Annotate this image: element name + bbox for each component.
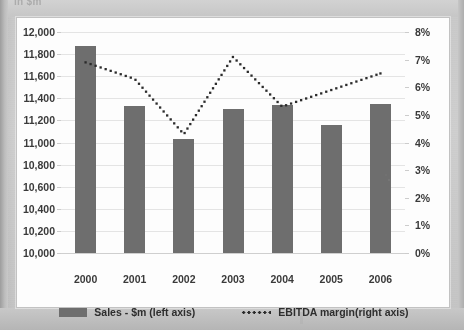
y-axis-left-tick-label: 10,400	[7, 204, 55, 214]
y-axis-right-tick	[405, 198, 409, 199]
y-axis-left-tick-label: 10,000	[7, 248, 55, 258]
scan-speck-secondary	[300, 312, 303, 324]
y-axis-right-tick-label: 0%	[415, 248, 455, 258]
scan-speck	[384, 173, 391, 182]
y-axis-right-tick	[405, 225, 409, 226]
y-axis-left-tick-label: 12,000	[7, 27, 55, 37]
legend-entry-sales[interactable]: Sales - $m (left axis)	[59, 306, 195, 318]
y-axis-left-tick-label: 11,000	[7, 138, 55, 148]
y-axis-right-tick-label: 4%	[415, 138, 455, 148]
y-axis-right-tick-label: 3%	[415, 165, 455, 175]
y-axis-right-tick	[405, 32, 409, 33]
legend-bar-swatch-icon	[59, 308, 87, 317]
scanned-page: in $m 2000200120022003200420052006 10,00…	[0, 0, 464, 330]
clipped-heading-text: in $m	[14, 0, 134, 7]
y-axis-right-tick	[405, 115, 409, 116]
y-axis-right-tick	[405, 60, 409, 61]
y-axis-right-tick	[405, 253, 409, 254]
scan-right-edge	[458, 0, 464, 330]
y-axis-right-tick	[405, 143, 409, 144]
ebitda-margin-line	[61, 32, 405, 253]
y-axis-right-tick-label: 6%	[415, 82, 455, 92]
y-axis-left-tick-label: 11,400	[7, 93, 55, 103]
y-axis-right-tick	[405, 87, 409, 88]
y-axis-left-tick-label: 11,200	[7, 115, 55, 125]
chart-legend: Sales - $m (left axis)EBITDA margin(righ…	[17, 302, 451, 322]
x-axis-label-2006: 2006	[350, 274, 410, 285]
chart-card: 2000200120022003200420052006 10,00010,20…	[16, 17, 450, 308]
y-axis-left-tick-label: 10,800	[7, 160, 55, 170]
y-axis-right-tick-label: 8%	[415, 27, 455, 37]
legend-entry-ebitda-margin[interactable]: EBITDA margin(right axis)	[241, 306, 408, 318]
y-axis-left-tick	[57, 253, 61, 254]
y-axis-left-tick-label: 11,600	[7, 71, 55, 81]
legend-dotted-line-swatch-icon	[241, 308, 271, 317]
plot-area	[61, 32, 405, 253]
y-axis-right-tick-label: 1%	[415, 220, 455, 230]
y-axis-right-tick-label: 5%	[415, 110, 455, 120]
y-axis-right-tick-label: 7%	[415, 55, 455, 65]
y-axis-left-tick-label: 11,800	[7, 49, 55, 59]
legend-label: Sales - $m (left axis)	[94, 306, 195, 318]
y-axis-right-tick-label: 2%	[415, 193, 455, 203]
y-axis-left-tick-label: 10,600	[7, 182, 55, 192]
gridline	[61, 253, 405, 254]
y-axis-right-tick	[405, 170, 409, 171]
y-axis-left-tick-label: 10,200	[7, 226, 55, 236]
legend-label: EBITDA margin(right axis)	[278, 306, 408, 318]
